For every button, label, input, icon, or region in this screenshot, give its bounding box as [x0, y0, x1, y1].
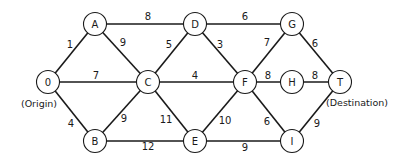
- node-a: A: [84, 13, 107, 36]
- node-label: C: [145, 77, 152, 88]
- edge-weight: 3: [217, 39, 223, 50]
- node-f: F: [234, 71, 257, 94]
- edge-weight: 6: [242, 11, 248, 22]
- edge-weight: 9: [314, 118, 320, 129]
- annotations-layer: (Origin) (Destination): [21, 97, 388, 109]
- edge-weight: 4: [68, 118, 74, 129]
- node-label: E: [192, 136, 198, 147]
- edge-weight: 7: [93, 70, 99, 81]
- node-h: H: [281, 71, 304, 94]
- node-label: G: [288, 19, 296, 30]
- node-label: A: [92, 19, 99, 30]
- node-label: T: [336, 77, 344, 88]
- node-o: 0: [37, 71, 60, 94]
- edge-weight: 8: [312, 70, 318, 81]
- network-diagram: 17489912541163109786689 0ABCDEFGHIT (Ori…: [0, 0, 399, 163]
- node-label: I: [291, 136, 294, 147]
- edge-weight: 6: [312, 38, 318, 49]
- node-d: D: [184, 13, 207, 36]
- edge-weight: 1: [67, 39, 73, 50]
- node-b: B: [84, 130, 107, 153]
- edge-weight: 12: [142, 141, 155, 152]
- node-t: T: [329, 71, 352, 94]
- edge-weight: 9: [242, 142, 248, 153]
- node-label: D: [191, 19, 199, 30]
- node-label: 0: [45, 77, 51, 88]
- edge-weight: 7: [264, 37, 270, 48]
- node-i: I: [281, 130, 304, 153]
- destination-label: (Destination): [326, 97, 388, 108]
- node-g: G: [281, 13, 304, 36]
- node-label: F: [242, 77, 248, 88]
- edge-weight: 10: [219, 115, 232, 126]
- edge-weight: 9: [121, 113, 127, 124]
- edge-weight: 6: [264, 116, 270, 127]
- edge-weight: 11: [160, 114, 173, 125]
- edge-weight: 8: [265, 70, 271, 81]
- edge-weight: 5: [166, 39, 172, 50]
- edge-weight: 4: [192, 70, 198, 81]
- node-label: H: [288, 77, 296, 88]
- edge-weight: 8: [145, 11, 151, 22]
- node-label: B: [92, 136, 99, 147]
- node-c: C: [137, 71, 160, 94]
- edge-weight: 9: [120, 37, 126, 48]
- origin-label: (Origin): [21, 98, 57, 109]
- node-e: E: [184, 130, 207, 153]
